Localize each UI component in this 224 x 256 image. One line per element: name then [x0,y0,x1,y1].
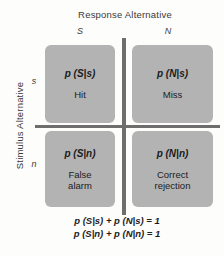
cell-outcome-label: False alarm [68,169,92,191]
matrix-cell-miss: p (N|s) Miss [132,45,213,123]
cell-probability: p (S|s) [65,68,96,79]
matrix-cell-hit: p (S|s) Hit [45,45,115,123]
column-label-n: N [155,26,181,36]
row-label-s: s [27,76,41,86]
equations-block: p (S|s) + p (N|s) = 1 p (S|n) + p (N|n) … [22,214,212,240]
cell-outcome-label: Correct rejection [155,169,191,191]
signal-detection-matrix-figure: Response Alternative S N Stimulus Altern… [0,0,224,256]
cell-probability: p (S|n) [64,148,95,159]
row-axis-title: Stimulus Alternative [14,51,25,201]
column-label-s: S [67,26,93,36]
row-label-n: n [27,159,41,169]
cell-outcome-label: Hit [74,89,86,100]
equation-row-n: p (S|n) + p (N|n) = 1 [22,227,212,240]
cell-outcome-label: Miss [163,89,183,100]
matrix-cell-false-alarm: p (S|n) False alarm [45,131,115,207]
matrix-cell-correct-rejection: p (N|n) Correct rejection [132,131,213,207]
cell-probability: p (N|s) [157,68,188,79]
horizontal-divider-line [35,125,220,128]
cell-probability: p (N|n) [157,148,189,159]
column-axis-title: Response Alternative [30,9,220,20]
equation-row-s: p (S|s) + p (N|s) = 1 [22,214,212,227]
